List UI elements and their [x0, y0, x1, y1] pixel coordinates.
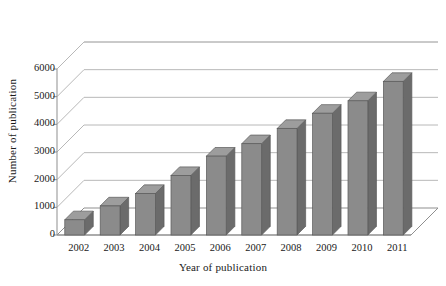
x-axis-tick-labels: 2002200320042005200620072008200920102011	[0, 0, 446, 286]
x-axis-tick-label: 2011	[375, 242, 419, 253]
y-axis-title: Number of publication	[6, 56, 18, 206]
bar-chart: 0100020003000400050006000 20022003200420…	[0, 0, 446, 286]
x-axis-title: Year of publication	[0, 261, 446, 273]
